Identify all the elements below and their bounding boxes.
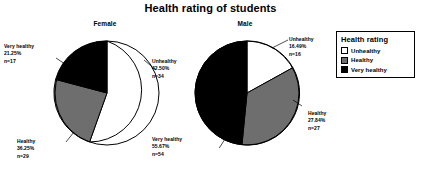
slice-label-line-count: n=27 (308, 125, 326, 132)
slice-label-line-category: Unhealthy (289, 36, 314, 43)
legend-title: Health rating (341, 35, 410, 44)
pie-chart-female (52, 38, 162, 148)
slice-label-female-unhealthy: Unhealthy 42.50% n=34 (152, 58, 177, 80)
pie-slice-male-very-healthy (195, 41, 247, 145)
slice-label-line-category: Unhealthy (152, 58, 177, 65)
legend-swatch-very-healthy (341, 66, 348, 73)
legend-item-healthy: Healthy (341, 57, 410, 64)
legend: Health rating Unhealthy Healthy Very hea… (336, 31, 415, 78)
chart-figure: Health rating of students Female Male (0, 0, 421, 183)
legend-label-unhealthy: Unhealthy (351, 48, 380, 54)
slice-label-line-category: Very healthy (152, 136, 182, 143)
slice-label-line-count: n=16 (289, 51, 314, 58)
slice-label-male-very-healthy: Very healthy 55.67% n=54 (152, 136, 182, 158)
slice-label-line-category: Healthy (308, 110, 326, 117)
slice-label-male-unhealthy: Unhealthy 16.49% n=16 (289, 36, 314, 58)
legend-label-very-healthy: Very healthy (351, 67, 387, 73)
slice-label-female-healthy: Healthy 36.25% n=29 (17, 138, 35, 160)
slice-label-line-percent: 36.25% (17, 145, 35, 152)
slice-label-line-percent: 16.49% (289, 43, 314, 50)
legend-swatch-unhealthy (341, 47, 348, 54)
legend-item-unhealthy: Unhealthy (341, 47, 410, 54)
panel-title-female: Female (50, 20, 160, 27)
slice-label-line-percent: 42.50% (152, 65, 177, 72)
legend-item-very-healthy: Very healthy (341, 66, 410, 73)
slice-label-line-count: n=54 (152, 151, 182, 158)
pie-chart-male (192, 38, 302, 148)
slice-label-line-category: Very healthy (4, 43, 34, 50)
slice-label-male-healthy: Healthy 27.84% n=27 (308, 110, 326, 132)
slice-label-line-count: n=34 (152, 73, 177, 80)
slice-label-line-category: Healthy (17, 138, 35, 145)
legend-label-healthy: Healthy (351, 57, 373, 63)
slice-label-line-count: n=29 (17, 153, 35, 160)
slice-label-line-percent: 55.67% (152, 143, 182, 150)
panel-title-male: Male (190, 20, 300, 27)
slice-label-line-percent: 21.25% (4, 50, 34, 57)
legend-swatch-healthy (341, 57, 348, 64)
slice-label-line-percent: 27.84% (308, 117, 326, 124)
slice-label-line-count: n=17 (4, 58, 34, 65)
slice-label-female-very-healthy: Very healthy 21.25% n=17 (4, 43, 34, 65)
chart-title: Health rating of students (0, 2, 421, 14)
